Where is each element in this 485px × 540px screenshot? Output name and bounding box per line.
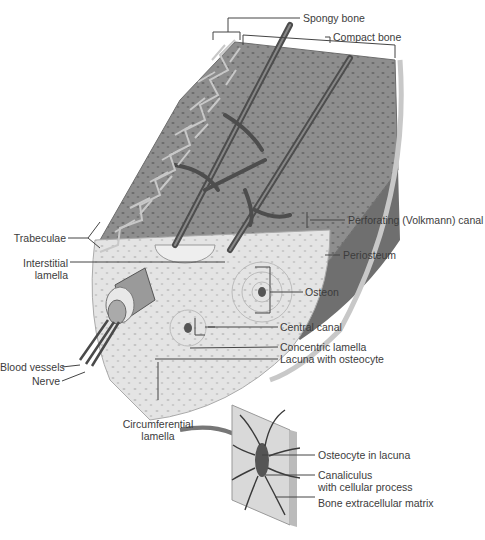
label-compact-bone: Compact bone [333, 31, 401, 43]
label-bone-extracellular-matrix: Bone extracellular matrix [318, 497, 434, 509]
osteocyte-inset [232, 405, 300, 527]
label-circumferential-lamella-line1: Circumferential [108, 418, 208, 430]
label-lacuna-with-osteocyte: Lacuna with osteocyte [280, 353, 384, 365]
label-perforating-canal: Perforating (Volkmann) canal [348, 214, 483, 226]
label-blood-vessels: Blood vessels [0, 361, 60, 373]
label-circumferential-lamella-line2: lamella [108, 430, 208, 442]
label-interstitial-lamella-line2: lamella [0, 269, 68, 281]
label-central-canal: Central canal [280, 321, 342, 333]
label-interstitial-lamella-line1: Interstitial [0, 257, 68, 269]
label-spongy-bone: Spongy bone [303, 12, 365, 24]
label-concentric-lamella: Concentric lamella [280, 341, 366, 353]
label-canaliculus-line2: with cellular process [318, 481, 413, 493]
label-osteon: Osteon [305, 286, 339, 298]
label-trabeculae: Trabeculae [0, 232, 66, 244]
bone-illustration [0, 0, 485, 540]
label-periosteum: Periosteum [343, 249, 396, 261]
label-canaliculus-line1: Canaliculus [318, 469, 372, 481]
label-osteocyte-in-lacuna: Osteocyte in lacuna [318, 449, 410, 461]
label-nerve: Nerve [0, 375, 60, 387]
